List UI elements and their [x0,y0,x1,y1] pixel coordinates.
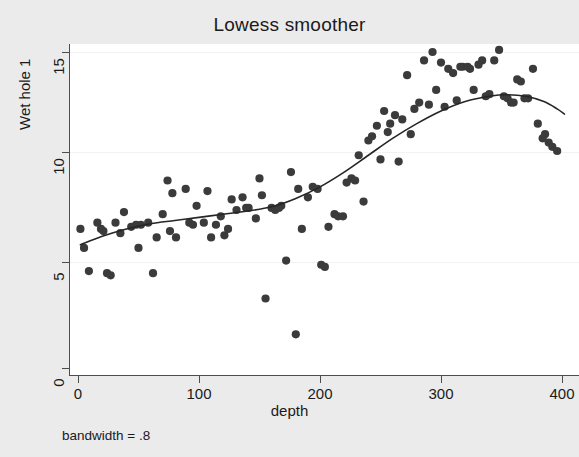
y-tick-label-15: 15 [50,52,67,82]
x-tick-mark-100 [199,376,200,383]
x-tick-mark-300 [441,376,442,383]
y-tick-label-10: 10 [50,152,67,182]
plot-area [70,44,579,376]
chart-title: Lowess smoother [0,14,579,36]
x-axis-line [69,375,579,376]
x-tick-label-100: 100 [169,385,229,402]
x-tick-label-400: 400 [532,385,579,402]
x-tick-label-0: 0 [48,385,108,402]
y-tick-label-5: 5 [50,262,67,292]
x-tick-mark-200 [320,376,321,383]
y-axis-label: Wet hole 1 [16,59,33,130]
x-tick-mark-0 [78,376,79,383]
gridline-y-10 [70,152,579,153]
chart-figure: Lowess smoother 15 10 5 0 0 100 200 300 … [0,0,579,457]
x-tick-label-300: 300 [411,385,471,402]
x-tick-label-200: 200 [290,385,350,402]
gridline-y-5 [70,262,579,263]
x-tick-mark-400 [562,376,563,383]
bandwidth-note: bandwidth = .8 [62,428,150,443]
gridline-y-15 [70,52,579,53]
y-axis-line [69,44,70,376]
x-axis-label: depth [0,402,579,419]
